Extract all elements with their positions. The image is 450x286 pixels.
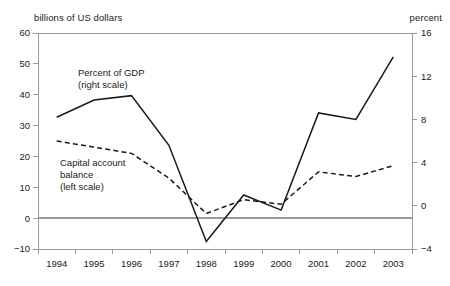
left-tick-label: 30	[19, 120, 30, 131]
right-tick-label: −4	[421, 243, 432, 254]
left-tick-label: 40	[19, 89, 30, 100]
right-axis-ticks: 1612840−4	[412, 27, 432, 254]
axis-frame	[38, 33, 412, 249]
annotation-line: (right scale)	[78, 79, 128, 90]
left-axis-ticks: 6050403020100−10	[14, 27, 38, 254]
x-axis-label: 2003	[383, 258, 404, 269]
chart-container: billions of US dollars percent 605040302…	[0, 0, 450, 286]
left-tick-label: 10	[19, 182, 30, 193]
left-tick-label: 20	[19, 151, 30, 162]
x-axis-labels: 1994199519961997199819992000200120022003	[46, 258, 404, 269]
left-tick-label: −10	[14, 243, 30, 254]
right-tick-label: 12	[421, 71, 432, 82]
x-axis-label: 1998	[196, 258, 217, 269]
annotation-line: balance	[60, 169, 93, 180]
left-tick-label: 0	[25, 213, 30, 224]
right-tick-label: 4	[421, 157, 426, 168]
chart-annotations: Percent of GDP(right scale)Capital accou…	[60, 67, 145, 192]
capital-account-label: Capital accountbalance(left scale)	[60, 157, 126, 192]
x-axis-label: 2000	[271, 258, 292, 269]
chart-plot-area: 6050403020100−10 1612840−4 1994199519961…	[0, 0, 450, 286]
right-tick-label: 16	[421, 27, 432, 38]
left-tick-label: 50	[19, 58, 30, 69]
x-axis-label: 1994	[46, 258, 67, 269]
annotation-line: Capital account	[60, 157, 126, 168]
annotation-line: Percent of GDP	[78, 67, 145, 78]
x-axis-label: 2001	[308, 258, 329, 269]
right-tick-label: 8	[421, 114, 426, 125]
x-axis-label: 1995	[84, 258, 105, 269]
series-line-1	[57, 141, 394, 214]
x-axis-label: 2002	[345, 258, 366, 269]
left-tick-label: 60	[19, 27, 30, 38]
annotation-line: (left scale)	[60, 181, 104, 192]
x-axis-ticks	[38, 249, 412, 254]
percent-of-gdp-label: Percent of GDP(right scale)	[78, 67, 145, 90]
x-axis-label: 1997	[158, 258, 179, 269]
x-axis-label: 1996	[121, 258, 142, 269]
x-axis-label: 1999	[233, 258, 254, 269]
right-tick-label: 0	[421, 200, 426, 211]
